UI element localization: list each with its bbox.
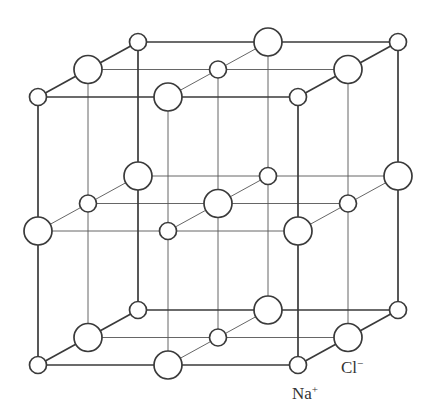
- chloride-ion: [334, 56, 362, 84]
- chloride-ion: [284, 217, 312, 245]
- sodium-ion: [30, 89, 47, 106]
- sodium-ion: [80, 195, 97, 212]
- chloride-ion: [74, 324, 102, 352]
- sodium-ion: [290, 89, 307, 106]
- sodium-ion: [340, 195, 357, 212]
- sodium-ion: [130, 302, 147, 319]
- sodium-ion: [210, 329, 227, 346]
- chloride-ion: [254, 296, 282, 324]
- chloride-ion: [254, 28, 282, 56]
- chloride-symbol: Cl: [341, 358, 357, 377]
- chloride-charge: −: [357, 357, 363, 369]
- sodium-ion: [390, 302, 407, 319]
- sodium-ion-label: Na+: [292, 384, 318, 402]
- chloride-ion-label: Cl−: [341, 358, 363, 376]
- chloride-ion: [334, 324, 362, 352]
- chloride-ion: [124, 162, 152, 190]
- chloride-ion: [384, 162, 412, 190]
- chloride-ion: [154, 351, 182, 379]
- nacl-lattice-diagram: Na+ Cl−: [0, 0, 428, 418]
- sodium-ion: [260, 168, 277, 185]
- sodium-charge: +: [312, 383, 318, 395]
- sodium-ion: [30, 357, 47, 374]
- sodium-ion: [130, 34, 147, 51]
- sodium-ion: [390, 34, 407, 51]
- chloride-ion: [204, 190, 232, 218]
- chloride-ion: [154, 83, 182, 111]
- sodium-symbol: Na: [292, 384, 312, 403]
- sodium-ion: [210, 61, 227, 78]
- sodium-ion: [290, 357, 307, 374]
- sodium-ion: [160, 223, 177, 240]
- chloride-ion: [24, 217, 52, 245]
- chloride-ion: [74, 56, 102, 84]
- lattice-canvas: [0, 0, 428, 418]
